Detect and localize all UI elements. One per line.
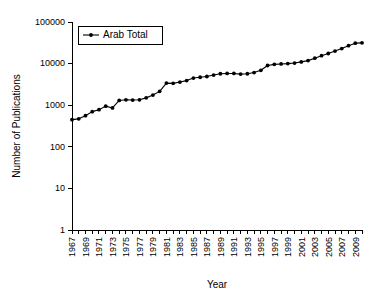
data-point (84, 114, 88, 118)
chart-figure: 110100100010000100000 196719691971197319… (0, 0, 380, 294)
data-point (178, 80, 182, 84)
x-tick-label-1989: 1989 (216, 237, 226, 257)
data-point (279, 62, 283, 66)
chart-legend[interactable]: Arab Total (78, 26, 162, 44)
data-point (192, 76, 196, 80)
x-tick-label-2001: 2001 (297, 237, 307, 257)
data-point (266, 64, 270, 68)
x-tick-label-1971: 1971 (94, 237, 104, 257)
legend-marker-icon (89, 33, 93, 37)
data-point (158, 89, 162, 93)
data-point (313, 56, 317, 60)
data-point (117, 99, 121, 103)
legend-label-arab-total: Arab Total (103, 29, 148, 40)
x-tick-label-1985: 1985 (189, 237, 199, 257)
data-point (239, 72, 243, 76)
data-point (225, 72, 229, 76)
x-tick-label-1981: 1981 (162, 237, 172, 257)
x-tick-label-1983: 1983 (175, 237, 185, 257)
data-point (293, 61, 297, 65)
data-point (90, 110, 94, 114)
y-tick-label-10000: 10000 (40, 58, 65, 68)
data-point (320, 54, 324, 58)
data-point (286, 62, 290, 66)
x-tick-label-1987: 1987 (202, 237, 212, 257)
data-point (138, 98, 142, 102)
data-point (205, 75, 209, 79)
x-tick-label-1969: 1969 (81, 237, 91, 257)
data-point (360, 41, 364, 45)
data-point (306, 59, 310, 63)
data-point (218, 72, 222, 76)
data-point (353, 41, 357, 45)
data-point (299, 60, 303, 64)
data-point (185, 79, 189, 83)
data-point (151, 93, 155, 97)
data-point (326, 52, 330, 56)
data-point (77, 117, 81, 121)
x-tick-label-1967: 1967 (67, 237, 77, 257)
x-tick-label-1977: 1977 (135, 237, 145, 257)
x-axis-title: Year (207, 279, 228, 290)
y-tick-label-1: 1 (60, 225, 65, 235)
y-tick-label-1000: 1000 (45, 100, 65, 110)
data-point (144, 96, 148, 100)
y-axis-ticks: 110100100010000100000 (35, 17, 72, 235)
x-axis-ticks (72, 230, 362, 234)
data-point (111, 106, 115, 110)
x-tick-label-2007: 2007 (337, 237, 347, 257)
x-tick-label-2005: 2005 (324, 237, 334, 257)
data-point (340, 47, 344, 51)
x-tick-label-1999: 1999 (283, 237, 293, 257)
axis-frame (72, 22, 362, 230)
data-point (124, 98, 128, 102)
data-point (272, 62, 276, 66)
x-tick-label-1991: 1991 (229, 237, 239, 257)
data-point (259, 68, 263, 72)
y-tick-label-100000: 100000 (35, 17, 65, 27)
data-point (232, 72, 236, 76)
y-axis-title: Number of Publications (11, 74, 22, 177)
x-axis-tick-labels: 1967196919711973197519771979198119831985… (67, 237, 360, 257)
data-point (245, 72, 249, 76)
data-point (252, 71, 256, 75)
data-point (70, 118, 74, 122)
data-point (212, 73, 216, 77)
data-point (165, 81, 169, 85)
data-point (198, 75, 202, 79)
data-point (104, 104, 108, 108)
data-point (131, 98, 135, 102)
x-tick-label-2009: 2009 (351, 237, 361, 257)
x-tick-label-1995: 1995 (256, 237, 266, 257)
data-point (333, 49, 337, 53)
y-tick-label-10: 10 (55, 183, 65, 193)
publications-line-chart: 110100100010000100000 196719691971197319… (0, 0, 380, 294)
data-point (347, 44, 351, 48)
series-line-arab-total (72, 43, 362, 120)
x-tick-label-1997: 1997 (270, 237, 280, 257)
x-tick-label-1979: 1979 (148, 237, 158, 257)
x-tick-label-2003: 2003 (310, 237, 320, 257)
x-tick-label-1973: 1973 (108, 237, 118, 257)
data-point (97, 108, 101, 112)
y-tick-label-100: 100 (50, 142, 65, 152)
x-tick-label-1993: 1993 (243, 237, 253, 257)
data-point (171, 81, 175, 85)
x-tick-label-1975: 1975 (121, 237, 131, 257)
series-arab-total (70, 41, 364, 122)
